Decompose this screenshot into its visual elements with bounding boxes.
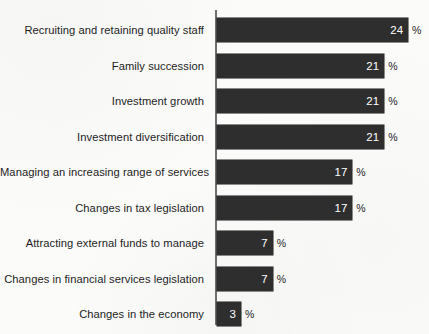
percent-sign: % xyxy=(245,302,254,326)
percent-sign: % xyxy=(388,125,397,149)
bar-value-label: 21 xyxy=(217,54,384,78)
bar-row: Recruiting and retaining quality staff24… xyxy=(0,18,429,42)
bar-row: Changes in the economy3% xyxy=(0,302,429,326)
bar-row: Changes in tax legislation17% xyxy=(0,196,429,220)
category-label: Changes in financial services legislatio… xyxy=(0,267,204,291)
percent-sign: % xyxy=(356,160,365,184)
percent-sign: % xyxy=(277,231,286,255)
bar-row: Attracting external funds to manage7% xyxy=(0,231,429,255)
percent-sign: % xyxy=(388,89,397,113)
bar-row: Family succession21% xyxy=(0,54,429,78)
percent-sign: % xyxy=(388,54,397,78)
bar-chart: Recruiting and retaining quality staff24… xyxy=(0,0,429,334)
category-label: Family succession xyxy=(0,54,204,78)
percent-sign: % xyxy=(356,196,365,220)
bar-row: Managing an increasing range of services… xyxy=(0,160,429,184)
category-label: Changes in the economy xyxy=(0,302,204,326)
bar-row: Investment diversification21% xyxy=(0,125,429,149)
bar-value-label: 21 xyxy=(217,125,384,149)
bar-row: Investment growth21% xyxy=(0,89,429,113)
bar-value-label: 17 xyxy=(217,160,352,184)
category-label: Managing an increasing range of services xyxy=(0,160,204,184)
bar-value-label: 21 xyxy=(217,89,384,113)
bar-value-label: 7 xyxy=(217,267,273,291)
plot-area: Recruiting and retaining quality staff24… xyxy=(0,0,429,334)
bar-value-label: 3 xyxy=(217,302,241,326)
category-label: Investment growth xyxy=(0,89,204,113)
percent-sign: % xyxy=(277,267,286,291)
bar-value-label: 7 xyxy=(217,231,273,255)
category-label: Recruiting and retaining quality staff xyxy=(0,18,204,42)
bar-value-label: 24 xyxy=(217,18,408,42)
category-label: Changes in tax legislation xyxy=(0,196,204,220)
bar-row: Changes in financial services legislatio… xyxy=(0,267,429,291)
bar-value-label: 17 xyxy=(217,196,352,220)
percent-sign: % xyxy=(412,18,421,42)
category-label: Attracting external funds to manage xyxy=(0,231,204,255)
category-label: Investment diversification xyxy=(0,125,204,149)
